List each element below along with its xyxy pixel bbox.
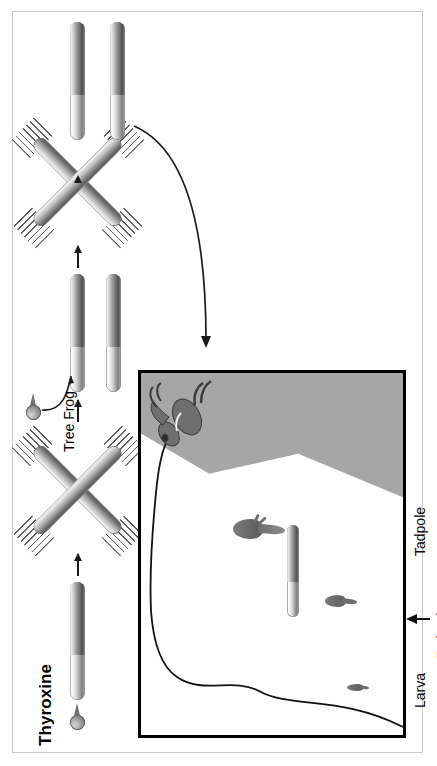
vial-1	[70, 582, 85, 700]
tree-frog-silhouette	[147, 373, 221, 451]
diagram-stage: Thyroxine	[14, 12, 422, 752]
dropper-tip	[30, 393, 36, 406]
vial-endpoint	[287, 525, 299, 617]
midstage-silhouette	[325, 595, 346, 607]
vial-final	[110, 22, 125, 140]
dropper-icon	[70, 704, 85, 730]
arrow-right-icon	[77, 554, 79, 576]
experiment-box	[138, 370, 406, 738]
larva-silhouette	[347, 684, 364, 691]
label-tadpole: Tadpole	[412, 507, 428, 556]
succussion-icon-1	[22, 434, 134, 546]
vial-4	[70, 22, 85, 140]
label-tree-frog-line1: Tree Frog	[62, 391, 77, 452]
page-title: Thyroxine	[36, 664, 56, 746]
dropper-tip	[74, 703, 80, 716]
label-larva: Larva	[412, 673, 428, 708]
label-end-point: End point	[434, 601, 437, 660]
curved-arrow-icon-to-box	[124, 122, 224, 362]
label-tree-frog: Tree Frog	[62, 391, 77, 452]
vial-3	[106, 274, 121, 392]
figure-page: Thyroxine	[0, 0, 437, 766]
tadpole-silhouette	[233, 519, 263, 539]
dropper-bulb	[70, 715, 85, 730]
arrow-right-icon	[77, 246, 79, 268]
figure-border: Thyroxine	[12, 11, 423, 753]
arrow-up-icon-endpoint	[406, 608, 432, 630]
